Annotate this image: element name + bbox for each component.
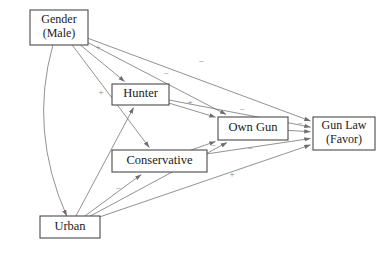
edge-sign-gender-gunlaw: − <box>198 56 203 66</box>
node-gender[interactable]: Gender(Male) <box>30 10 88 45</box>
node-label-owngun-line0: Own Gun <box>229 120 279 134</box>
edge-gender-urban <box>44 45 67 216</box>
edge-sign-conservative-gunlaw: − <box>247 143 252 153</box>
edge-sign-gender-owngun: − <box>163 68 168 78</box>
node-gunlaw[interactable]: Gun Law(Favor) <box>313 117 375 150</box>
edge-sign-urban-conservative: − <box>115 183 120 193</box>
edge-sign-hunter-gunlaw: − <box>239 104 244 114</box>
node-urban[interactable]: Urban <box>40 216 100 238</box>
node-conservative[interactable]: Conservative <box>112 150 207 172</box>
edge-sign-conservative-owngun: − <box>210 140 215 150</box>
node-label-gender-line0: Gender <box>41 12 76 26</box>
node-label-gunlaw-line1: (Favor) <box>326 132 362 146</box>
path-diagram: Gender(Male)HunterConservativeUrbanOwn G… <box>0 0 390 254</box>
node-label-conservative-line0: Conservative <box>127 153 193 167</box>
node-label-gender-line1: (Male) <box>43 26 76 40</box>
node-label-hunter-line0: Hunter <box>123 86 159 100</box>
edge-sign-owngun-gunlaw: − <box>297 118 302 128</box>
edge-conservative-gunlaw <box>207 139 311 154</box>
node-hunter[interactable]: Hunter <box>112 84 169 105</box>
edge-owngun-gunlaw <box>288 130 311 131</box>
nodes-layer: Gender(Male)HunterConservativeUrbanOwn G… <box>30 10 375 238</box>
node-label-urban-line0: Urban <box>54 219 86 233</box>
edge-sign-gender-conservative: + <box>98 87 103 97</box>
edge-sign-hunter-owngun: + <box>187 97 192 107</box>
node-owngun[interactable]: Own Gun <box>218 117 288 140</box>
node-label-gunlaw-line0: Gun Law <box>322 118 367 132</box>
edge-urban-conservative <box>85 175 141 217</box>
edge-gender-gunlaw <box>88 38 311 121</box>
edge-sign-gender-hunter: + <box>95 42 100 52</box>
edge-sign-urban-owngun: + <box>229 169 234 179</box>
